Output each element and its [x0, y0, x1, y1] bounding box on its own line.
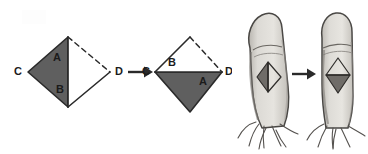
procedure-arrow [292, 69, 316, 80]
step-one-flap-A [28, 37, 68, 107]
anatomy-panel [232, 0, 368, 154]
step-two-flap-A [155, 72, 222, 112]
finger-before [238, 13, 298, 149]
step-two-label-C: C [142, 65, 150, 77]
step-one-label-D: D [115, 65, 123, 77]
step-one-rhombus: A B C D [14, 37, 123, 107]
geometry-panel: A B C D B [0, 0, 232, 154]
scan-artifact [22, 10, 46, 24]
step-two-rhombus: B A C D [142, 37, 232, 112]
step-one-label-B: B [56, 83, 64, 95]
step-one-label-C: C [14, 65, 22, 77]
step-two-label-B: B [168, 56, 176, 68]
step-one-label-A: A [53, 51, 61, 63]
finger-after [307, 13, 365, 149]
figure-canvas: A B C D B [0, 0, 368, 154]
step-two-label-A: A [199, 75, 207, 87]
step-two-label-D: D [225, 65, 232, 77]
geometry-svg: A B C D B [0, 0, 232, 154]
anatomy-svg [232, 0, 368, 154]
step-two-defect-B [155, 37, 222, 72]
step-one-defect-B [68, 37, 110, 107]
procedure-arrow-head [307, 69, 316, 80]
